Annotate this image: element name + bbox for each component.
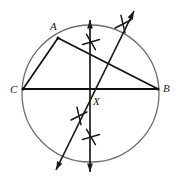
diagonal-construction-line	[56, 11, 134, 170]
vertical-construction-line-arrowhead-end	[87, 164, 93, 173]
vertical-construction-line-arrowhead-start	[87, 20, 93, 29]
point-label-c: C	[10, 83, 18, 95]
arc-mark-upper-vertical	[82, 34, 99, 49]
construction-layer	[56, 11, 134, 172]
point-label-x: X	[92, 95, 101, 107]
point-a	[57, 37, 60, 40]
point-label-b: B	[163, 82, 170, 94]
geometry-figure: ACBX	[0, 0, 177, 183]
point-b	[157, 88, 160, 91]
point-label-a: A	[49, 20, 57, 32]
arc-mark-upper-vertical-stroke-b	[82, 34, 99, 49]
point-c	[22, 88, 25, 91]
diagonal-construction-line-arrowhead-end	[56, 161, 62, 170]
geometry-canvas: ACBX	[0, 0, 177, 183]
arc-mark-lower-vertical	[82, 129, 99, 144]
diagonal-construction-line-arrowhead-start	[128, 11, 134, 20]
arc-mark-lower-vertical-stroke-b	[82, 129, 99, 144]
